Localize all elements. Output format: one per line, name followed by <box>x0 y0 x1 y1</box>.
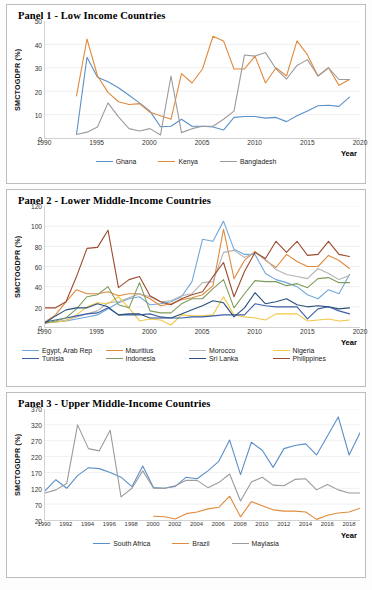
x-tick-label: 2020 <box>353 328 368 335</box>
panel-1-legend: GhanaKenyaBangladesh <box>12 158 360 165</box>
legend-swatch-icon <box>232 543 249 544</box>
x-tick-label: 1990 <box>37 521 50 527</box>
legend-swatch-icon <box>189 350 206 351</box>
x-tick-label: 2005 <box>195 139 210 146</box>
x-tick-label: 2015 <box>300 139 315 146</box>
legend-swatch-icon <box>22 358 39 359</box>
x-tick-label: 2000 <box>146 521 159 527</box>
x-tick-label: 2014 <box>299 521 312 527</box>
panel-1-x-ticks: 1990199520002005201020152020 <box>44 139 360 150</box>
legend-label: Ghana <box>116 158 137 165</box>
legend-swatch-icon <box>189 358 206 359</box>
legend-item-tunisia[interactable]: Tunisia <box>22 355 64 362</box>
legend-label: Morocco <box>209 347 235 354</box>
panel-3-x-ticks: 1990199219941996199820002002200420062008… <box>44 521 360 532</box>
x-tick-label: 2004 <box>190 521 203 527</box>
legend-label: Brazil <box>192 540 209 547</box>
legend-label: Tunisia <box>42 355 64 362</box>
legend-item-nigeria[interactable]: Nigeria <box>273 347 315 354</box>
series-line-south-africa <box>45 417 360 491</box>
y-tick-label: 270 <box>31 438 42 445</box>
x-tick-label: 1998 <box>125 521 138 527</box>
series-line-ghana <box>77 57 350 134</box>
x-tick-label: 1995 <box>89 139 104 146</box>
panel-3-plot-area <box>44 409 360 521</box>
legend-label: Sri Lanka <box>209 355 238 362</box>
y-tick-label: 20 <box>35 88 42 95</box>
figure-page: Panel 1 - Low Income Countries SMCTOGDPR… <box>0 0 372 590</box>
legend-label: Egypt, Arab Rep <box>42 347 92 354</box>
legend-swatch-icon <box>22 350 39 351</box>
legend-item-mauritius[interactable]: Mauritius <box>106 347 154 354</box>
x-tick-label: 2020 <box>353 139 368 146</box>
legend-item-south-africa[interactable]: South Africa <box>93 540 150 547</box>
legend-label: Kenya <box>178 158 198 165</box>
panel-3-x-axis-label: Year <box>12 531 360 540</box>
x-tick-label: 2006 <box>212 521 225 527</box>
panel-1-lines <box>45 21 360 138</box>
legend-item-brazil[interactable]: Brazil <box>172 540 209 547</box>
panel-2-title: Panel 2 - Lower Middle-Income Countries <box>18 195 360 206</box>
legend-item-morocco[interactable]: Morocco <box>189 347 235 354</box>
legend-label: Bangladesh <box>240 158 276 165</box>
panel-2-lines <box>45 206 360 327</box>
panel-2-y-ticks: 020406080100120 <box>23 206 44 328</box>
y-tick-label: 80 <box>35 243 42 250</box>
y-tick-label: 40 <box>35 284 42 291</box>
panel-3-y-axis-label: SMCTOGDPR (%) <box>12 409 23 521</box>
y-tick-label: 50 <box>35 18 42 25</box>
y-tick-label: 10 <box>35 112 42 119</box>
legend-item-ghana[interactable]: Ghana <box>96 158 137 165</box>
panel-3: Panel 3 - Upper Middle-Income Countries … <box>6 392 366 578</box>
legend-item-bangladesh[interactable]: Bangladesh <box>220 158 276 165</box>
legend-item-kenya[interactable]: Kenya <box>158 158 198 165</box>
panel-2-x-axis-label: Year <box>12 338 360 347</box>
panel-3-legend: South AfricaBrazilMaylasia <box>12 540 360 547</box>
legend-swatch-icon <box>220 161 237 162</box>
panel-1-x-axis-label: Year <box>12 149 360 158</box>
legend-swatch-icon <box>93 543 110 544</box>
legend-swatch-icon <box>158 161 175 162</box>
legend-item-philippines[interactable]: Philippines <box>273 355 326 362</box>
legend-label: Maylasia <box>252 540 279 547</box>
legend-item-sri-lanka[interactable]: Sri Lanka <box>189 355 238 362</box>
x-tick-label: 2005 <box>195 328 210 335</box>
x-tick-label: 2012 <box>277 521 290 527</box>
y-tick-label: 20 <box>35 304 42 311</box>
panel-2: Panel 2 - Lower Middle-Income Countries … <box>6 189 366 387</box>
y-tick-label: 220 <box>31 454 42 461</box>
legend-item-egypt-arab-rep[interactable]: Egypt, Arab Rep <box>22 347 92 354</box>
y-tick-label: 60 <box>35 264 42 271</box>
legend-item-maylasia[interactable]: Maylasia <box>232 540 279 547</box>
x-tick-label: 2000 <box>142 139 157 146</box>
x-tick-label: 1996 <box>103 521 116 527</box>
legend-swatch-icon <box>172 543 189 544</box>
x-tick-label: 1990 <box>37 139 52 146</box>
x-tick-label: 2018 <box>343 521 356 527</box>
legend-label: South Africa <box>113 540 150 547</box>
x-tick-label: 1992 <box>59 521 72 527</box>
series-line-brazil <box>154 496 360 519</box>
x-tick-label: 2008 <box>234 521 247 527</box>
x-tick-label: 1994 <box>81 521 94 527</box>
panel-3-title: Panel 3 - Upper Middle-Income Countries <box>18 398 360 409</box>
y-tick-label: 100 <box>31 223 42 230</box>
panel-1-y-axis-label: SMCTOGDPR (%) <box>12 21 23 139</box>
legend-label: Nigeria <box>293 347 315 354</box>
legend-label: Indonesia <box>126 355 156 362</box>
y-tick-label: 70 <box>35 502 42 509</box>
series-line-bangladesh <box>77 53 350 135</box>
y-tick-label: 320 <box>31 422 42 429</box>
legend-swatch-icon <box>106 350 123 351</box>
panel-2-y-axis-label: SMCTOGDPR (%) <box>12 206 23 328</box>
x-tick-label: 1990 <box>37 328 52 335</box>
x-tick-label: 2016 <box>321 521 334 527</box>
y-tick-label: 120 <box>31 203 42 210</box>
panel-1: Panel 1 - Low Income Countries SMCTOGDPR… <box>6 4 366 184</box>
legend-item-indonesia[interactable]: Indonesia <box>106 355 156 362</box>
x-tick-label: 2000 <box>142 328 157 335</box>
panel-1-y-ticks: 01020304050 <box>23 21 44 139</box>
panel-1-title: Panel 1 - Low Income Countries <box>18 10 360 21</box>
series-line-kenya <box>77 36 350 119</box>
legend-swatch-icon <box>106 358 123 359</box>
